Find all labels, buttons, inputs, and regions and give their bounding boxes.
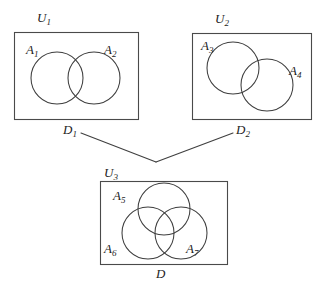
- diagram-canvas: U1 A1 A2 D1 U2 A3 A4: [0, 0, 326, 287]
- relation-label-d2: D2: [235, 122, 250, 139]
- connector-line-right: [156, 133, 233, 162]
- universe-label-2: U2: [215, 11, 229, 28]
- connector-line-left: [81, 133, 156, 162]
- connector-group: [81, 133, 233, 162]
- diagram-group-2: U2 A3 A4 D2: [193, 11, 312, 139]
- universe-label-1: U1: [37, 10, 51, 27]
- diagram-group-3: U3 A5 A6 A7 D: [101, 165, 228, 281]
- relation-label-d: D: [155, 266, 166, 281]
- universe-label-3: U3: [104, 165, 118, 182]
- diagram-group-1: U1 A1 A2 D1: [15, 10, 139, 139]
- venn-diagram-figure: U1 A1 A2 D1 U2 A3 A4: [0, 0, 326, 287]
- relation-label-d1: D1: [62, 122, 77, 139]
